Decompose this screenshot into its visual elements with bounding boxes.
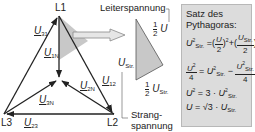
label-u23: U23 — [24, 118, 38, 129]
equation-2: U24 = U2Str. − U2Str.4 — [186, 59, 247, 84]
label-half-u: 12 U — [153, 21, 167, 38]
formula-title: Satz des Pythagoras: — [186, 8, 247, 30]
equation-1: U2Str. =(U2)2+(UStr.2)2 — [186, 33, 247, 55]
label-u3n: U3N — [39, 95, 54, 106]
pythagoras-formula-box: Satz des Pythagoras: U2Str. =(U2)2+(UStr… — [181, 4, 252, 127]
label-leiterspannung: Leiterspannung — [100, 3, 166, 13]
label-u2n: U2N — [80, 81, 95, 92]
equation-4: U = √3 · UStr. — [186, 103, 247, 113]
vector-u12 — [59, 16, 112, 112]
label-u12: U12 — [102, 76, 116, 87]
label-u31: U31 — [34, 26, 48, 37]
node-l3: L3 — [1, 118, 12, 128]
equation-3: U2 = 3 · U2Str. — [186, 88, 247, 99]
leader-strangspannung — [122, 72, 128, 118]
label-half-u-str: 12 UStr. — [145, 81, 168, 98]
label-u-str: UStr. — [118, 58, 134, 69]
label-strangspannung-1: Strang- — [131, 110, 162, 120]
node-l1: L1 — [55, 3, 66, 13]
label-u1n: U1N — [44, 48, 59, 59]
node-l2: L2 — [107, 118, 118, 128]
label-strangspannung-2: spannung — [131, 121, 173, 131]
